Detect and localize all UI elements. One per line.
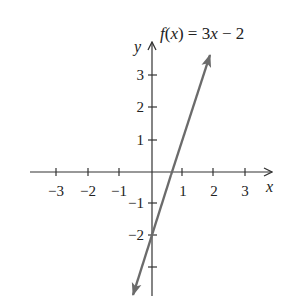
x-tick-label: 1 <box>179 183 187 199</box>
y-tick-label: 3 <box>137 67 145 83</box>
x-axis-label: x <box>265 178 273 195</box>
x-tick-labels: −3 −2 −1 1 2 3 <box>48 183 249 199</box>
y-tick-label: −1 <box>128 195 144 211</box>
function-graph: −3 −2 −1 1 2 3 3 2 1 −1 −2 x y f(x) = 3x… <box>0 0 293 307</box>
x-tick-label: −2 <box>80 183 96 199</box>
x-tick-label: −3 <box>48 183 64 199</box>
y-tick-label: 1 <box>137 132 145 148</box>
function-line <box>171 55 210 175</box>
x-tick-label: −1 <box>111 183 127 199</box>
function-label: f(x) = 3x − 2 <box>160 24 244 43</box>
x-tick-label: 3 <box>241 183 249 199</box>
y-axis-label: y <box>132 38 142 56</box>
y-tick-labels: 3 2 1 −1 −2 <box>128 67 144 243</box>
y-tick-label: 2 <box>137 99 145 115</box>
y-tick-label: −2 <box>128 227 144 243</box>
x-tick-label: 2 <box>210 183 218 199</box>
